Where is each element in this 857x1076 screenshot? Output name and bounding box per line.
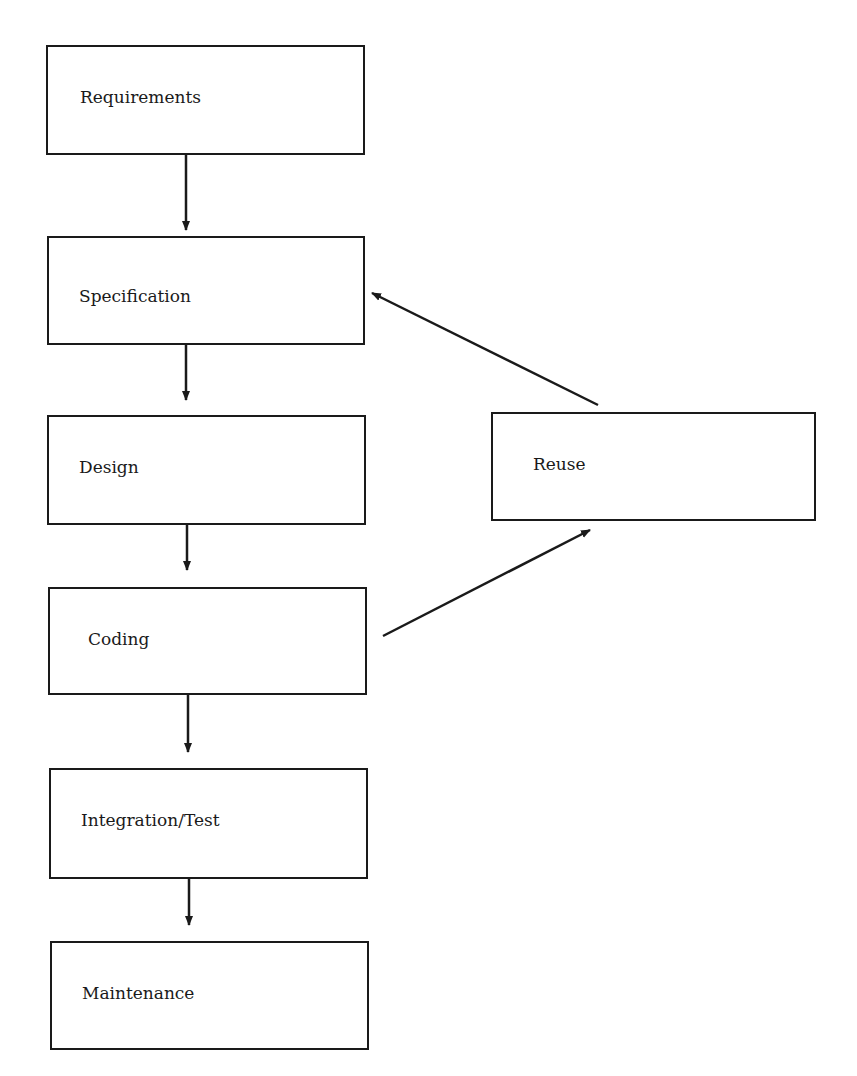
node-label: Specification [79, 286, 191, 306]
node-specification: Specification [47, 236, 365, 345]
node-label: Coding [88, 629, 149, 649]
node-integration-test: Integration/Test [49, 768, 368, 879]
arrow-reuse-to-specification [372, 293, 598, 405]
node-label: Maintenance [82, 983, 194, 1003]
node-maintenance: Maintenance [50, 941, 369, 1050]
node-design: Design [47, 415, 366, 525]
arrow-coding-to-reuse [383, 530, 590, 636]
node-label: Requirements [80, 87, 201, 107]
node-label: Integration/Test [81, 810, 220, 830]
arrows-layer [0, 0, 857, 1076]
node-coding: Coding [48, 587, 367, 695]
node-label: Reuse [533, 454, 586, 474]
node-label: Design [79, 457, 139, 477]
node-requirements: Requirements [46, 45, 365, 155]
node-reuse: Reuse [491, 412, 816, 521]
